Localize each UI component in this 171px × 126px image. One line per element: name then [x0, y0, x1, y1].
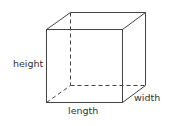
length-label: length — [68, 106, 98, 116]
hidden-edge-bottom-left — [47, 86, 71, 103]
edge-top-right — [123, 13, 146, 30]
height-label: height — [13, 59, 43, 69]
front-face — [47, 30, 123, 103]
edge-top-left — [47, 13, 71, 30]
width-label: width — [134, 93, 160, 103]
cube-diagram: height length width — [0, 0, 171, 126]
